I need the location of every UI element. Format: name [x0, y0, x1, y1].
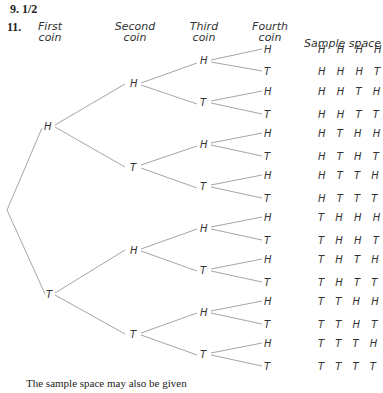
sample-outcome: H H H T	[318, 67, 381, 77]
node-l4: H	[264, 297, 272, 307]
answer-9: 9. 1/2	[10, 2, 37, 17]
node-l3: H	[200, 56, 208, 66]
sample-outcome: T T H H	[318, 297, 380, 307]
node-l3: T	[200, 98, 206, 108]
sample-outcome: H T T H	[318, 171, 380, 181]
header-line: coin	[112, 32, 158, 43]
node-l2: T	[130, 330, 136, 340]
node-l4: T	[264, 194, 270, 204]
node-l2: H	[130, 79, 138, 89]
sample-outcome: T H H H	[318, 213, 381, 223]
node-l2: H	[130, 246, 138, 256]
node-l4: H	[264, 45, 272, 55]
node-l4: H	[264, 171, 272, 181]
node-l4: H	[264, 213, 272, 223]
node-l1: T	[46, 290, 52, 300]
header-line: coin	[30, 32, 70, 43]
sample-outcome: H T H T	[318, 152, 380, 162]
answer-number: 9.	[10, 2, 19, 16]
node-l4: T	[264, 278, 270, 288]
node-l3: H	[200, 140, 208, 150]
node-l3: T	[200, 266, 206, 276]
node-l4: H	[264, 129, 272, 139]
node-l4: T	[264, 67, 270, 77]
header-fourth-coin: Fourth coin	[250, 21, 290, 43]
sample-outcome: T H T H	[318, 255, 380, 265]
header-second-coin: Second coin	[112, 21, 158, 43]
header-line: coin	[186, 32, 222, 43]
sample-outcome: T T T H	[318, 339, 378, 349]
problem-number-11: 11.	[7, 20, 21, 35]
header-third-coin: Third coin	[186, 21, 222, 43]
header-line: coin	[250, 32, 290, 43]
node-l4: T	[264, 110, 270, 120]
node-l2: T	[130, 163, 136, 173]
node-l1: H	[44, 122, 52, 132]
header-first-coin: First coin	[30, 21, 70, 43]
answer-text: 1/2	[22, 2, 37, 16]
footer-note: The sample space may also be given	[26, 377, 187, 389]
node-l4: T	[264, 236, 270, 246]
sample-outcome: T T T T	[318, 362, 377, 372]
sample-outcome: H T T T	[318, 194, 378, 204]
sample-outcome: H H H H	[318, 45, 383, 55]
sample-outcome: H H T T	[318, 110, 380, 120]
sample-outcome: H T H H	[318, 129, 381, 139]
node-l4: T	[264, 152, 270, 162]
sample-outcome: T T H T	[318, 320, 378, 330]
sample-outcome: T H T T	[318, 278, 378, 288]
node-l3: T	[200, 350, 206, 360]
node-l4: H	[264, 87, 272, 97]
sample-outcome: T H H T	[318, 236, 380, 246]
node-l4: H	[264, 255, 272, 265]
node-l4: H	[264, 339, 272, 349]
node-l3: H	[200, 308, 208, 318]
node-l4: T	[264, 362, 270, 372]
sample-outcome: H H T H	[318, 87, 381, 97]
node-l3: H	[200, 224, 208, 234]
node-l4: T	[264, 320, 270, 330]
node-l3: T	[200, 182, 206, 192]
